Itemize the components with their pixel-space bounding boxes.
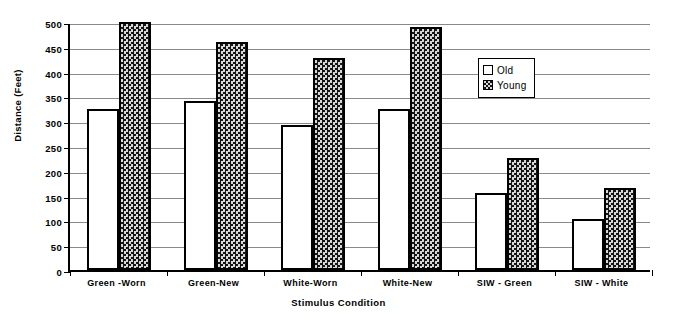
y-axis-tick-label: 50	[28, 242, 62, 253]
legend-item-young: Young	[483, 78, 527, 92]
x-axis-title: Stimulus Condition	[0, 297, 677, 308]
x-axis-category-label: Green-New	[188, 278, 239, 288]
gridline	[70, 74, 650, 75]
bar-old-4	[475, 193, 507, 270]
y-axis-tick-labels: 050100150200250300350400450500	[20, 24, 62, 272]
x-axis-category-label: White-New	[383, 278, 433, 288]
y-axis-tick-label: 350	[28, 93, 62, 104]
gridline	[70, 247, 650, 248]
x-axis-category-label: SIW - Green	[477, 278, 532, 288]
checkered-square-icon	[483, 80, 493, 90]
x-axis-tick	[167, 270, 168, 276]
x-axis-category-label: Green -Worn	[87, 278, 146, 288]
bar-young-3	[410, 27, 442, 270]
white-square-icon	[483, 65, 493, 75]
y-axis-tick	[64, 247, 70, 248]
bar-old-1	[184, 101, 216, 270]
gridline	[70, 173, 650, 174]
x-axis-tick-labels: Green -WornGreen-NewWhite-WornWhite-NewS…	[68, 278, 650, 294]
bar-young-5	[604, 188, 636, 270]
bar-old-5	[572, 219, 604, 270]
y-axis-tick	[64, 49, 70, 50]
x-axis-tick	[361, 270, 362, 276]
y-axis-tick-label: 150	[28, 192, 62, 203]
y-axis-tick-label: 300	[28, 118, 62, 129]
y-axis-tick	[64, 98, 70, 99]
bar-old-2	[281, 125, 313, 270]
gridline	[70, 148, 650, 149]
bar-young-4	[507, 158, 539, 270]
y-axis-tick-label: 250	[28, 143, 62, 154]
y-axis-tick-label: 200	[28, 167, 62, 178]
bar-young-0	[119, 22, 151, 270]
bar-young-2	[313, 58, 345, 270]
x-axis-category-label: White-Worn	[283, 278, 337, 288]
gridline	[70, 222, 650, 223]
gridline	[70, 198, 650, 199]
x-axis-tick	[555, 270, 556, 276]
bar-chart: Distance (Feet) 050100150200250300350400…	[0, 0, 677, 321]
gridline	[70, 123, 650, 124]
plot-area	[68, 24, 650, 272]
y-axis-tick	[64, 123, 70, 124]
y-axis-tick-label: 0	[28, 267, 62, 278]
x-axis-category-label: SIW - White	[575, 278, 629, 288]
y-axis-tick	[64, 74, 70, 75]
y-axis-tick-label: 400	[28, 68, 62, 79]
x-axis-tick	[652, 270, 653, 276]
y-axis-tick	[64, 222, 70, 223]
y-axis-tick-label: 500	[28, 19, 62, 30]
legend-item-label: Old	[497, 65, 513, 76]
bar-old-3	[378, 109, 410, 270]
chart-legend: OldYoung	[478, 58, 535, 98]
y-axis-tick	[64, 198, 70, 199]
y-axis-tick-label: 450	[28, 43, 62, 54]
bar-young-1	[216, 42, 248, 270]
x-axis-tick	[458, 270, 459, 276]
y-axis-tick	[64, 173, 70, 174]
gridline	[70, 49, 650, 50]
gridline	[70, 24, 650, 25]
legend-item-old: Old	[483, 63, 527, 77]
y-axis-tick	[64, 148, 70, 149]
y-axis-tick	[64, 24, 70, 25]
gridline	[70, 98, 650, 99]
x-axis-tick	[70, 270, 71, 276]
x-axis-tick	[264, 270, 265, 276]
y-axis-tick-label: 100	[28, 217, 62, 228]
bar-old-0	[87, 109, 119, 270]
legend-item-label: Young	[497, 80, 527, 91]
